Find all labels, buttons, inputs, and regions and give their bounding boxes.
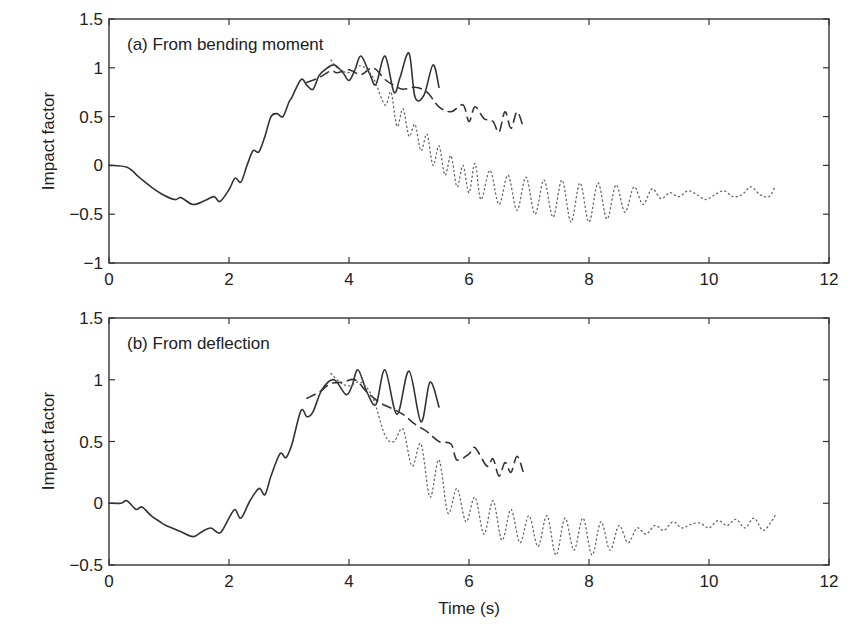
series-line-dotted xyxy=(331,374,775,556)
series-line-solid xyxy=(109,370,439,537)
x-tick-label: 8 xyxy=(584,270,593,289)
x-tick-label: 8 xyxy=(584,572,593,591)
plot-b-panel-label: (b) From deflection xyxy=(127,334,270,353)
series-line-dashed xyxy=(307,68,523,133)
x-tick-label: 4 xyxy=(344,572,353,591)
chart-figure: 024681012−1−0.500.511.5 (a) From bending… xyxy=(0,0,850,640)
panel-a-bending-moment: 024681012−1−0.500.511.5 (a) From bending… xyxy=(39,10,838,289)
plot-b-frame xyxy=(109,318,829,565)
plot-a-series xyxy=(109,53,775,222)
x-axis-title: Time (s) xyxy=(438,599,500,618)
y-tick-label: 1 xyxy=(94,371,103,390)
y-tick-label: −1 xyxy=(84,254,103,273)
x-tick-label: 10 xyxy=(700,572,719,591)
series-line-solid xyxy=(109,53,439,205)
plot-b-ylabel: Impact factor xyxy=(39,392,58,491)
y-tick-label: −0.5 xyxy=(69,205,103,224)
y-tick-label: −0.5 xyxy=(69,556,103,575)
y-tick-label: 1.5 xyxy=(79,10,103,29)
x-tick-label: 2 xyxy=(224,270,233,289)
x-tick-label: 0 xyxy=(104,572,113,591)
x-tick-label: 12 xyxy=(820,270,839,289)
x-tick-label: 2 xyxy=(224,572,233,591)
x-tick-label: 0 xyxy=(104,270,113,289)
plot-a-ylabel: Impact factor xyxy=(39,92,58,191)
y-tick-label: 1.5 xyxy=(79,309,103,328)
x-tick-label: 4 xyxy=(344,270,353,289)
y-tick-label: 0.5 xyxy=(79,108,103,127)
y-tick-label: 0 xyxy=(94,494,103,513)
plot-a-frame xyxy=(109,19,829,263)
y-tick-label: 0.5 xyxy=(79,433,103,452)
x-tick-label: 6 xyxy=(464,270,473,289)
x-tick-label: 12 xyxy=(820,572,839,591)
x-tick-label: 6 xyxy=(464,572,473,591)
plot-a-panel-label: (a) From bending moment xyxy=(127,35,324,54)
y-tick-label: 1 xyxy=(94,59,103,78)
panel-b-deflection: 024681012−0.500.511.5 (b) From deflectio… xyxy=(39,309,838,618)
x-tick-label: 10 xyxy=(700,270,719,289)
plot-b-series xyxy=(109,370,775,555)
y-tick-label: 0 xyxy=(94,156,103,175)
